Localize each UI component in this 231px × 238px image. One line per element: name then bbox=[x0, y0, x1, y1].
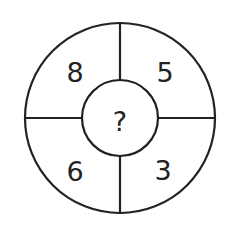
segment-bottom-right-number: 3 bbox=[154, 155, 171, 186]
segment-top-right-number: 5 bbox=[156, 57, 173, 88]
segment-bottom-left-number: 6 bbox=[66, 156, 83, 187]
center-question-mark: ? bbox=[113, 106, 127, 137]
number-wheel-diagram: 8 5 6 3 ? bbox=[0, 0, 231, 238]
segment-top-left-number: 8 bbox=[66, 57, 83, 88]
